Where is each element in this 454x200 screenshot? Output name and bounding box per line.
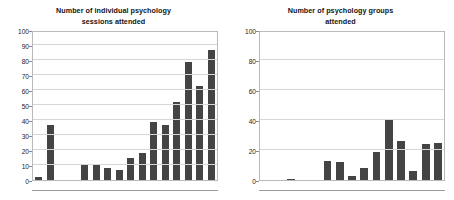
- bar-slot: [285, 32, 297, 180]
- bar-slot: [183, 32, 195, 180]
- bar-slot: [148, 32, 160, 180]
- bar: [208, 50, 215, 181]
- gridline: [33, 164, 217, 165]
- chart-panel-psychology-groups: Number of psychology groups attended 020…: [227, 0, 454, 200]
- bar-slot: [45, 32, 57, 180]
- plot-area-individual-sessions: [32, 31, 218, 181]
- gridline: [33, 59, 217, 60]
- bar-slot: [206, 32, 218, 180]
- bar: [336, 162, 344, 180]
- bar: [173, 102, 180, 180]
- gridline: [33, 44, 217, 45]
- gridline: [33, 134, 217, 135]
- y-axis-tick-label: 70: [22, 73, 29, 80]
- bar: [81, 165, 88, 180]
- bar: [385, 120, 393, 180]
- gridline: [33, 119, 217, 120]
- bar-slot: [334, 32, 346, 180]
- bar-slot: [56, 32, 68, 180]
- bar-slot: [309, 32, 321, 180]
- y-axis-tick-mark: [29, 181, 32, 182]
- gridline: [33, 104, 217, 105]
- y-axis-tick-label: 60: [249, 88, 256, 95]
- gridline: [33, 149, 217, 150]
- y-axis-tick-label: 100: [245, 28, 256, 35]
- bar-slot: [160, 32, 172, 180]
- bar: [162, 125, 169, 181]
- gridline: [260, 149, 444, 150]
- y-axis-tick-label: 50: [22, 103, 29, 110]
- bar: [196, 86, 203, 181]
- bar-series-psychology-groups: [260, 32, 444, 180]
- bar: [35, 177, 42, 180]
- y-axis-tick-label: 40: [249, 118, 256, 125]
- plot-wrapper-psychology-groups: 020406080100: [227, 0, 454, 200]
- y-axis-tick-label: 60: [22, 88, 29, 95]
- bar-slot: [91, 32, 103, 180]
- bar-slot: [79, 32, 91, 180]
- bar-slot: [432, 32, 444, 180]
- y-axis-tick-label: 80: [22, 58, 29, 65]
- bar: [324, 161, 332, 181]
- bar: [127, 158, 134, 181]
- bar-slot: [370, 32, 382, 180]
- gridline: [33, 74, 217, 75]
- bar-slot: [125, 32, 137, 180]
- bar-slot: [260, 32, 272, 180]
- y-axis-tick-label: 90: [22, 43, 29, 50]
- bar-slot: [419, 32, 431, 180]
- bar: [360, 168, 368, 180]
- bar: [116, 170, 123, 181]
- bar: [185, 62, 192, 181]
- x-axis-line: [32, 190, 218, 191]
- bar-slot: [383, 32, 395, 180]
- bar-slot: [272, 32, 284, 180]
- y-axis-tick-label: 30: [22, 133, 29, 140]
- bar-slot: [137, 32, 149, 180]
- plot-wrapper-individual-sessions: 0102030405060708090100: [0, 0, 227, 200]
- bar-slot: [171, 32, 183, 180]
- bar: [397, 141, 405, 180]
- plot-area-psychology-groups: [259, 31, 445, 181]
- bar-slot: [358, 32, 370, 180]
- y-axis-tick-label: 100: [18, 28, 29, 35]
- gridline: [260, 59, 444, 60]
- bar-slot: [395, 32, 407, 180]
- bar-slot: [321, 32, 333, 180]
- bar-slot: [114, 32, 126, 180]
- y-axis-tick-mark: [256, 181, 259, 182]
- chart-panel-individual-sessions: Number of individual psychology sessions…: [0, 0, 227, 200]
- bar-slot: [33, 32, 45, 180]
- gridline: [33, 89, 217, 90]
- bar: [139, 153, 146, 180]
- y-axis-tick-label: 0: [25, 178, 29, 185]
- y-axis-tick-label: 0: [252, 178, 256, 185]
- x-axis-line: [259, 190, 445, 191]
- bar: [150, 122, 157, 181]
- bar: [104, 168, 111, 180]
- bar-slot: [102, 32, 114, 180]
- bar-slot: [68, 32, 80, 180]
- bar-series-individual-sessions: [33, 32, 217, 180]
- y-axis-tick-label: 40: [22, 118, 29, 125]
- bar: [409, 171, 417, 180]
- bar: [47, 125, 54, 181]
- gridline: [260, 119, 444, 120]
- bar: [348, 176, 356, 181]
- bar-slot: [407, 32, 419, 180]
- y-axis-tick-label: 10: [22, 163, 29, 170]
- bar-slot: [194, 32, 206, 180]
- y-axis-tick-label: 80: [249, 58, 256, 65]
- bar: [373, 152, 381, 181]
- bar: [287, 179, 295, 181]
- bar: [93, 165, 100, 180]
- chart-figure: Number of individual psychology sessions…: [0, 0, 454, 200]
- y-axis-tick-label: 20: [249, 148, 256, 155]
- bar-slot: [297, 32, 309, 180]
- y-axis-tick-label: 20: [22, 148, 29, 155]
- bar-slot: [346, 32, 358, 180]
- gridline: [260, 89, 444, 90]
